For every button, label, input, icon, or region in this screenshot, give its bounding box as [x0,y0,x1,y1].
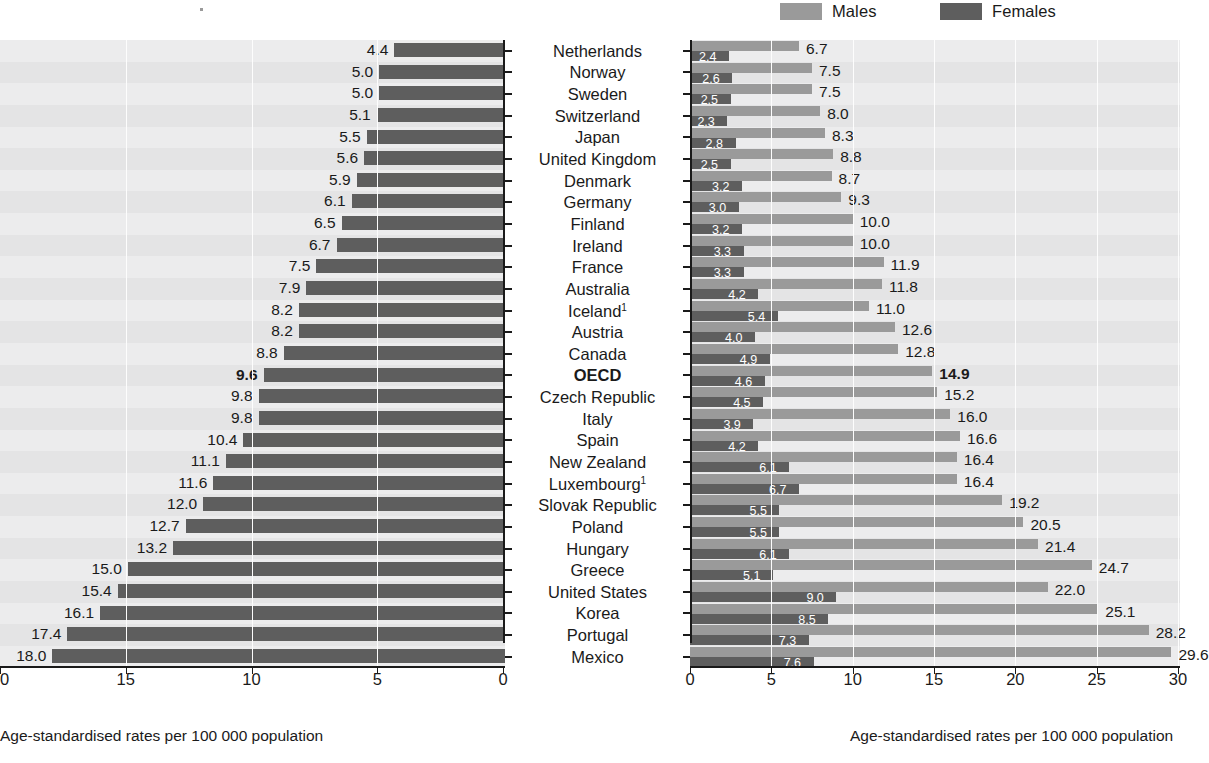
bar-males[interactable] [690,322,895,332]
bar-total[interactable] [67,627,505,641]
right-bar-row: 9.33.0 [690,191,1180,213]
left-bar-rows: 4.45.05.05.15.55.65.96.16.56.77.57.98.28… [0,40,505,668]
bar-total[interactable] [243,433,505,447]
left-bar-row: 11.6 [0,473,505,495]
axis-tick [853,668,854,674]
bar-total[interactable] [173,541,505,555]
category-tick [683,353,690,355]
bar-total[interactable] [306,281,505,295]
bar-value-label: 12.0 [167,496,197,511]
bar-total[interactable] [203,497,505,511]
category-label: Luxembourg1 [505,473,690,495]
bar-total[interactable] [337,238,506,252]
bar-value-label-males: 11.9 [891,257,920,272]
bar-total[interactable] [100,606,505,620]
category-label: Hungary [505,538,690,560]
bar-total[interactable] [299,303,505,317]
bar-total[interactable] [394,43,505,57]
bar-females[interactable] [690,397,763,407]
bar-females[interactable] [690,376,765,386]
bar-value-label: 5.6 [337,150,359,165]
legend-females[interactable]: Females [940,2,1056,21]
bar-males[interactable] [690,582,1048,592]
bar-total[interactable] [186,519,505,533]
bar-value-label-males: 16.6 [967,431,997,446]
right-bar-row: 16.46.1 [690,451,1180,473]
bar-males[interactable] [690,625,1149,635]
bar-total[interactable] [364,151,505,165]
bar-value-label: 4.4 [367,42,389,57]
bar-males[interactable] [690,301,869,311]
bar-total[interactable] [128,562,505,576]
category-label-text: Mexico [505,649,690,666]
stray-mark [200,8,203,11]
category-label: Italy [505,408,690,430]
bar-value-label-males: 10.0 [860,236,890,251]
bar-value-label: 5.0 [352,64,374,79]
category-label: Switzerland [505,105,690,127]
bar-total[interactable] [377,108,505,122]
bar-total[interactable] [264,368,505,382]
category-label: France [505,256,690,278]
legend-males[interactable]: Males [780,2,877,21]
bar-males[interactable] [690,366,932,376]
axis-tick [690,668,691,674]
bar-total[interactable] [213,476,505,490]
category-label: Spain [505,430,690,452]
bar-total[interactable] [226,454,505,468]
bar-total[interactable] [342,216,505,230]
bar-males[interactable] [690,474,957,484]
bar-males[interactable] [690,452,957,462]
bar-females[interactable] [690,419,753,429]
bar-value-label: 16.1 [64,605,94,620]
bar-males[interactable] [690,344,898,354]
left-chart-panel: 4.45.05.05.15.55.65.96.16.56.77.57.98.28… [0,40,505,693]
bar-males[interactable] [690,604,1098,614]
category-label-text: Netherlands [505,43,690,60]
axis-tick-label: 20 [0,670,9,689]
category-tick [683,504,690,506]
bar-total[interactable] [316,259,505,273]
bar-value-label: 13.2 [137,540,167,555]
bar-total[interactable] [367,130,505,144]
bar-females[interactable] [690,332,755,342]
bar-males[interactable] [690,517,1023,527]
left-bar-row: 5.0 [0,83,505,105]
right-bar-row: 11.84.2 [690,278,1180,300]
bar-total[interactable] [299,324,505,338]
footnote-marker: 1 [641,474,647,485]
bar-value-label: 9.8 [231,410,253,425]
category-label: Japan [505,127,690,149]
bar-males[interactable] [690,279,882,289]
category-label: Ireland [505,235,690,257]
category-tick [683,612,690,614]
bar-females[interactable] [690,441,758,451]
chart-legend: MalesFemales [680,0,1197,28]
left-bar-row: 10.4 [0,430,505,452]
left-bar-row: 9.8 [0,386,505,408]
category-tick [683,223,690,225]
right-bar-row: 16.64.2 [690,430,1180,452]
bar-total[interactable] [118,584,505,598]
bar-total[interactable] [284,346,505,360]
category-tick [683,569,690,571]
bar-total[interactable] [259,389,505,403]
category-label-text: Korea [505,605,690,622]
bar-females[interactable] [690,289,758,299]
bar-males[interactable] [690,387,937,397]
bar-males[interactable] [690,495,1002,505]
bar-total[interactable] [352,194,505,208]
bar-total[interactable] [357,173,505,187]
bar-total[interactable] [379,86,505,100]
bar-females[interactable] [690,354,770,364]
bar-total[interactable] [52,649,505,663]
left-bar-row: 6.1 [0,191,505,213]
right-bar-row: 11.05.4 [690,300,1180,322]
bar-males[interactable] [690,539,1038,549]
bar-total[interactable] [379,65,505,79]
bar-males[interactable] [690,647,1171,657]
bar-value-label-males: 22.0 [1055,582,1085,597]
bar-females[interactable] [690,570,773,580]
bar-total[interactable] [259,411,505,425]
left-bar-row: 5.6 [0,148,505,170]
